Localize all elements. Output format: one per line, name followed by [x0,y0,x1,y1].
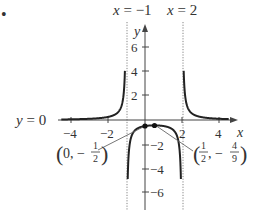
curve-right-branch [184,71,229,119]
x-tick-label: 4 [215,126,222,141]
svg-text:): ) [101,141,108,166]
x-axis-label: x [236,125,244,140]
asymptote-label-right: x = 2 [166,2,197,18]
x-tick-label: −2 [100,126,114,141]
svg-text:(: ( [193,141,200,166]
curve-left-branch [61,71,125,120]
y-tick-label: 2 [131,88,138,103]
svg-text:2: 2 [201,153,206,164]
y-axis: y 6 4 2 −2 −4 −6 [131,24,164,210]
asymptote-label-horizontal: y = 0 [14,112,46,128]
point-0-neg-half [142,123,147,128]
bullet-marker: • [1,6,7,23]
x-tick-label: 2 [179,126,186,141]
svg-text:1: 1 [201,140,206,151]
svg-text:1: 1 [93,140,98,151]
svg-text:0, −: 0, − [63,146,85,161]
y-tick-label: −2 [150,138,164,153]
point-label-1: ( 0, − 1 2 ) [56,140,108,166]
x-tick-label: −4 [63,126,77,141]
svg-text:9: 9 [232,153,237,164]
y-tick-label: 6 [131,40,138,55]
y-tick-label: 4 [131,64,138,79]
svg-text:4: 4 [232,140,237,151]
svg-text:, −: , − [208,146,223,161]
y-tick-label: −6 [150,185,164,200]
point-half-neg-4-9 [152,123,157,128]
asymptote-label-left: x = −1 [112,2,152,18]
svg-text:2: 2 [93,153,98,164]
rational-function-graph: • x = −1 x = 2 y = 0 −4 −2 2 4 x y 6 4 2… [0,0,253,223]
y-axis-label: y [132,24,141,39]
y-tick-label: −4 [150,162,164,177]
point-label-2: ( 1 2 , − 4 9 ) [193,140,247,166]
svg-text:): ) [240,141,247,166]
